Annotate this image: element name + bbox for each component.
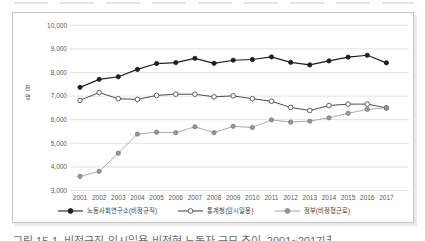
data-point <box>135 67 139 71</box>
x-tick-label: 2015 <box>341 194 356 201</box>
data-point <box>212 95 217 100</box>
y-tick-label: 10,000 <box>47 22 67 29</box>
data-point <box>116 96 121 101</box>
data-point <box>327 59 331 63</box>
legend-label-klsi: 노동사회연구소(비정규직) <box>87 206 157 215</box>
y-tick-label: 6,000 <box>51 116 68 123</box>
data-point <box>365 102 370 107</box>
data-point <box>212 131 216 135</box>
data-point <box>269 118 273 122</box>
data-point <box>116 151 120 155</box>
x-tick-label: 2016 <box>360 194 375 201</box>
data-point <box>212 61 216 65</box>
open-circle-marker-icon <box>177 207 204 215</box>
legend-item-kostat: 통계청(임시일용) <box>177 206 253 215</box>
data-point <box>308 119 312 123</box>
x-tick-label: 2017 <box>379 194 394 201</box>
y-tick-label: 8,000 <box>51 69 68 76</box>
x-tick-label: 2004 <box>130 194 145 201</box>
data-point <box>135 132 139 136</box>
data-point <box>384 61 388 65</box>
data-point <box>97 169 101 173</box>
x-tick-label: 2012 <box>283 194 298 201</box>
data-point <box>193 92 198 97</box>
data-point <box>288 105 293 110</box>
data-point <box>346 55 350 59</box>
data-point <box>193 56 197 60</box>
y-axis-unit-label: 천명 <box>25 84 31 100</box>
data-point <box>346 111 350 115</box>
data-point <box>269 55 273 59</box>
data-point <box>250 57 254 61</box>
x-tick-label: 2013 <box>303 194 318 201</box>
data-point <box>78 85 82 89</box>
data-point <box>97 77 101 81</box>
data-point <box>308 63 312 67</box>
data-point <box>116 75 120 79</box>
data-point <box>269 99 274 104</box>
x-tick-label: 2014 <box>322 194 337 201</box>
y-tick-label: 9,000 <box>51 45 68 52</box>
data-point <box>289 60 293 64</box>
data-point <box>250 125 254 129</box>
x-tick-label: 2006 <box>169 194 184 201</box>
data-point <box>193 125 197 129</box>
y-tick-label: 3,000 <box>51 187 68 194</box>
data-point <box>327 116 331 120</box>
filled-circle-marker-icon <box>57 207 84 215</box>
data-point <box>327 103 332 108</box>
x-tick-label: 2005 <box>149 194 164 201</box>
x-tick-label: 2009 <box>226 194 241 201</box>
legend-item-klsi: 노동사회연구소(비정규직) <box>57 206 157 215</box>
legend-label-gov: 정부(비정형근로) <box>304 206 350 215</box>
data-point <box>231 124 235 128</box>
data-point <box>289 120 293 124</box>
caption-clipped: 그림 15-1. 비정규직·임시일용·비정형 노동자 규모 추이, 2001~2… <box>13 232 423 241</box>
y-tick-label: 4,000 <box>51 163 68 170</box>
series-line-2 <box>80 108 386 176</box>
x-tick-label: 2011 <box>265 194 279 201</box>
x-tick-label: 2001 <box>73 194 88 201</box>
data-point <box>97 90 102 95</box>
data-point <box>154 93 159 98</box>
data-point <box>173 92 178 97</box>
data-point <box>155 61 159 65</box>
data-point <box>78 98 83 103</box>
x-tick-label: 2007 <box>188 194 203 201</box>
legend: 노동사회연구소(비정규직) 통계청(임시일용) 정부(비정형근로) <box>57 205 350 216</box>
y-tick-label: 5,000 <box>51 140 68 147</box>
data-point <box>78 174 82 178</box>
legend-item-gov: 정부(비정형근로) <box>274 206 350 215</box>
data-point <box>174 60 178 64</box>
data-point <box>308 108 313 113</box>
page: 10,0009,0008,0007,0006,0005,0004,0003,00… <box>0 0 425 241</box>
data-point <box>155 130 159 134</box>
data-point <box>250 96 255 101</box>
data-point <box>135 97 140 102</box>
data-point <box>174 131 178 135</box>
data-point <box>365 53 369 57</box>
gray-circle-marker-icon <box>274 207 301 215</box>
x-tick-label: 2010 <box>245 194 260 201</box>
data-point <box>231 94 236 99</box>
data-point <box>365 107 369 111</box>
data-point <box>384 106 388 110</box>
x-tick-label: 2002 <box>92 194 107 201</box>
legend-label-kostat: 통계청(임시일용) <box>207 206 253 215</box>
data-point <box>346 102 351 107</box>
data-point <box>231 58 235 62</box>
x-tick-label: 2003 <box>111 194 126 201</box>
x-tick-label: 2008 <box>207 194 222 201</box>
y-tick-label: 7,000 <box>51 92 68 99</box>
